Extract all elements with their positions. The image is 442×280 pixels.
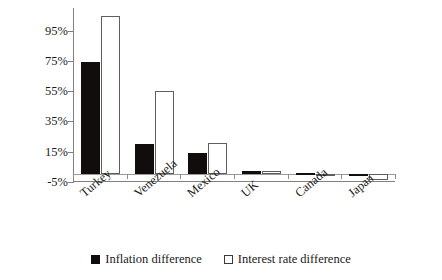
plot-area (73, 8, 395, 182)
bar-turkey-interest (101, 16, 120, 175)
chart-figure: 95%75%55%35%15%-5% TurkeyVenezuelaMexico… (0, 0, 442, 280)
legend-swatch-hollow-icon (224, 255, 233, 264)
bar-uk-inflation (242, 171, 261, 174)
y-tick-mark (68, 182, 74, 183)
legend-item-interest: Interest rate difference (224, 252, 351, 267)
bar-turkey-inflation (81, 62, 100, 174)
legend-label-interest: Interest rate difference (238, 252, 351, 267)
y-tick-label: 15% (6, 145, 68, 158)
legend-swatch-filled-icon (91, 255, 100, 264)
legend-label-inflation: Inflation difference (105, 252, 202, 267)
y-tick-label: 35% (6, 115, 68, 128)
bar-venezuela-inflation (135, 144, 154, 174)
chart-legend: Inflation difference Interest rate diffe… (0, 252, 442, 267)
bar-uk-interest (262, 171, 281, 174)
legend-item-inflation: Inflation difference (91, 252, 202, 267)
x-tick-mark (395, 174, 396, 179)
y-tick-label: -5% (6, 176, 68, 189)
y-tick-label: 55% (6, 85, 68, 98)
y-tick-label: 95% (6, 24, 68, 37)
y-tick-label: 75% (6, 55, 68, 68)
